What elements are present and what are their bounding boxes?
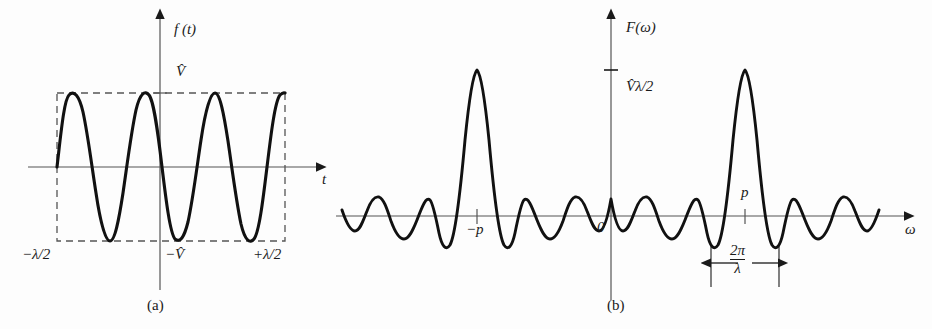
panel-b-right-center-label: p (741, 185, 749, 200)
panel-a-x-axis-label: t (322, 172, 326, 187)
figure-fourier-transform-pair: f (t) t V̂ −V̂ −λ/2 +λ/2 (a) F(ω) ω V̂λ/… (0, 0, 932, 329)
panel-b-origin-label: 0 (597, 220, 605, 235)
panel-b-width-label: 2π λ (730, 243, 745, 277)
panel-b-x-axis-label: ω (905, 222, 916, 237)
panel-a-caption: (a) (147, 297, 164, 314)
panel-b-left-center-label: −p (466, 222, 484, 237)
panel-b-peak-label: V̂λ/2 (626, 79, 653, 94)
width-denominator: λ (730, 259, 745, 277)
panel-b-axes (336, 18, 905, 300)
panel-a-right-limit-label: +λ/2 (253, 247, 281, 262)
figure-canvas (0, 0, 932, 329)
width-numerator: 2π (730, 243, 745, 259)
panel-a-amplitude-bottom-label: −V̂ (165, 247, 184, 262)
panel-a-left-limit-label: −λ/2 (22, 247, 50, 262)
panel-b-y-axis-label: F(ω) (626, 20, 656, 35)
panel-a-y-axis-label: f (t) (174, 22, 196, 37)
panel-b-caption: (b) (607, 297, 625, 314)
panel-a-amplitude-top-label: V̂ (176, 64, 185, 79)
